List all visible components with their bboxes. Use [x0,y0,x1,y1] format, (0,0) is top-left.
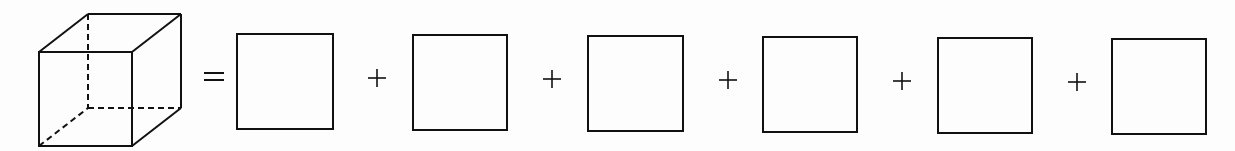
plus-signs [368,69,1086,91]
face-square-4 [763,37,857,132]
plus-sign-2 [543,70,561,88]
cube-equation-diagram [0,0,1235,151]
face-square-5 [938,38,1032,133]
plus-sign-3 [719,71,737,89]
face-square-2 [413,35,507,130]
face-square-1 [237,34,333,129]
cube-icon [39,14,181,146]
face-square-3 [588,36,683,131]
equals-sign [204,73,224,80]
face-squares [237,34,1206,134]
face-square-6 [1112,39,1206,134]
plus-sign-1 [368,69,386,87]
plus-sign-5 [1068,73,1086,91]
plus-sign-4 [893,72,911,90]
